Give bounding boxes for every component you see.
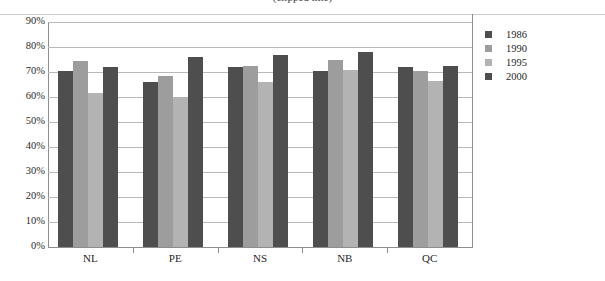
bar-nb-1990 [328,60,343,248]
y-axis-line [48,22,49,248]
bar-nl-1990 [73,61,88,247]
chart-legend: 1986199019952000 [485,28,595,84]
bar-qc-1995 [428,81,443,247]
bar-pe-1990 [158,76,173,247]
x-axis-line [48,247,473,248]
bar-qc-2000 [443,66,458,247]
y-axis-tick-label: 40% [3,141,45,151]
legend-swatch-icon [485,59,492,66]
bar-ns-2000 [273,55,288,248]
x-axis-tick [133,248,134,253]
bar-qc-1986 [398,67,413,247]
gridline [48,22,472,23]
x-axis-tick-label-nb: NB [302,252,387,264]
bar-chart: (clipped title) 0%10%20%30%40%50%60%70%8… [0,0,605,281]
x-axis-tick-label-nl: NL [48,252,133,264]
y-axis-tick-label: 70% [3,66,45,76]
x-axis-tick [302,248,303,253]
bar-nb-1995 [343,70,358,248]
gridline [48,47,472,48]
legend-item-2000[interactable]: 2000 [485,70,595,82]
bar-qc-1990 [413,71,428,247]
y-axis-tick-label: 90% [3,16,45,26]
legend-swatch-icon [485,73,492,80]
y-axis-tick-label: 10% [3,216,45,226]
plot-right-border [472,14,473,248]
y-axis-tick-label: 20% [3,191,45,201]
legend-label: 1995 [506,57,527,68]
legend-item-1990[interactable]: 1990 [485,42,595,54]
bar-nl-1995 [88,93,103,247]
legend-item-1986[interactable]: 1986 [485,28,595,40]
bar-nb-1986 [313,71,328,247]
x-axis-tick [218,248,219,253]
y-axis-tick-label: 50% [3,116,45,126]
x-axis-tick-label-pe: PE [133,252,218,264]
bar-pe-1995 [173,97,188,247]
y-axis-labels: 0%10%20%30%40%50%60%70%80%90% [0,0,45,281]
bar-nl-2000 [103,67,118,247]
legend-label: 1990 [506,43,527,54]
legend-swatch-icon [485,31,492,38]
legend-label: 1986 [506,29,527,40]
y-axis-tick-label: 30% [3,166,45,176]
x-axis-tick-label-ns: NS [218,252,303,264]
bar-nl-1986 [58,71,73,247]
bar-nb-2000 [358,52,373,247]
y-axis-tick-label: 0% [3,241,45,251]
y-axis-tick-label: 80% [3,41,45,51]
chart-title: (clipped title) [0,0,605,3]
bar-ns-1990 [243,66,258,247]
legend-swatch-icon [485,45,492,52]
bar-pe-2000 [188,57,203,247]
x-axis-tick-label-qc: QC [387,252,472,264]
legend-item-1995[interactable]: 1995 [485,56,595,68]
x-axis-tick [387,248,388,253]
y-axis-tick-label: 60% [3,91,45,101]
legend-label: 2000 [506,71,527,82]
header-divider [0,14,605,15]
bar-ns-1986 [228,67,243,247]
bar-pe-1986 [143,82,158,247]
bar-ns-1995 [258,82,273,247]
